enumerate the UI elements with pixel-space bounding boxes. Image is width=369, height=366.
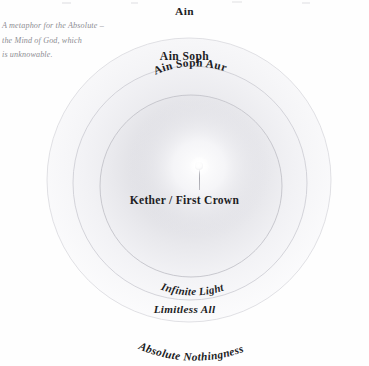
kether-point <box>195 162 203 170</box>
label-absolute-nothingness-text: Absolute Nothingness <box>136 339 245 363</box>
scan-artifact <box>62 2 71 4</box>
label-limitless-all: Limitless All <box>0 303 369 315</box>
scan-artifact <box>232 1 242 3</box>
label-absolute-nothingness: Absolute Nothingness <box>96 320 288 363</box>
svg-text:Absolute Nothingness: Absolute Nothingness <box>136 339 245 363</box>
caption-line-1: A metaphor for the Absolute – <box>2 19 110 34</box>
kether-stem <box>199 169 200 190</box>
scan-artifact <box>302 2 310 4</box>
caption-line-3: is unknowable. <box>2 48 110 63</box>
scan-artifact <box>131 2 138 4</box>
label-ain: Ain <box>0 5 369 17</box>
caption-line-2: the Mind of God, which <box>2 34 110 49</box>
label-kether: Kether / First Crown <box>0 194 369 206</box>
caption-block: A metaphor for the Absolute – the Mind o… <box>2 19 110 63</box>
